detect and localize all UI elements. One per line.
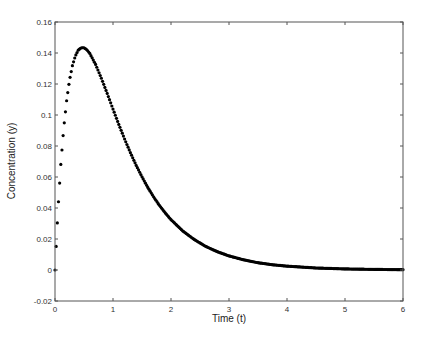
x-tick-label: 1 [111,305,116,314]
concentration-chart: 0123456 -0.0200.020.040.060.080.10.120.1… [0,0,423,342]
y-tick-label: 0.16 [36,18,52,27]
y-tick-label: 0.12 [36,80,52,89]
y-axis-label: Concentration (y) [6,123,17,200]
x-tick-label: 2 [169,305,174,314]
x-axis-label: Time (t) [212,313,246,324]
x-tick-label: 6 [401,305,406,314]
x-tick-label: 4 [285,305,290,314]
y-tick-label: 0.06 [36,173,52,182]
x-tick-label: 0 [53,305,58,314]
y-tick-label: 0.02 [36,235,52,244]
x-tick-label: 5 [343,305,348,314]
y-tick-label: -0.02 [34,297,53,306]
y-tick-label: 0.04 [36,204,52,213]
y-tick-label: 0.1 [41,111,53,120]
y-tick-label: 0 [48,266,53,275]
y-tick-label: 0.14 [36,49,52,58]
y-tick-label: 0.08 [36,142,52,151]
